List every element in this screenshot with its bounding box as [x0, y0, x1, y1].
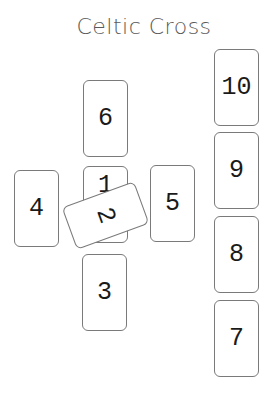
card-position-7[interactable]: 7: [214, 300, 259, 377]
card-position-9[interactable]: 9: [214, 132, 259, 209]
card-number: 3: [97, 280, 112, 305]
card-position-5[interactable]: 5: [150, 165, 195, 242]
card-number: 10: [221, 75, 251, 100]
card-position-8[interactable]: 8: [214, 216, 259, 293]
card-number: 2: [91, 204, 120, 227]
card-number: 9: [229, 158, 244, 183]
card-number: 7: [229, 326, 244, 351]
card-number: 6: [98, 106, 113, 131]
card-position-10[interactable]: 10: [214, 49, 259, 126]
card-position-6[interactable]: 6: [83, 80, 128, 157]
card-position-3[interactable]: 3: [82, 254, 127, 331]
card-position-4[interactable]: 4: [14, 170, 59, 247]
card-number: 5: [165, 191, 180, 216]
spread-title: Celtic Cross: [0, 14, 276, 39]
card-number: 8: [229, 242, 244, 267]
card-number: 4: [29, 196, 44, 221]
